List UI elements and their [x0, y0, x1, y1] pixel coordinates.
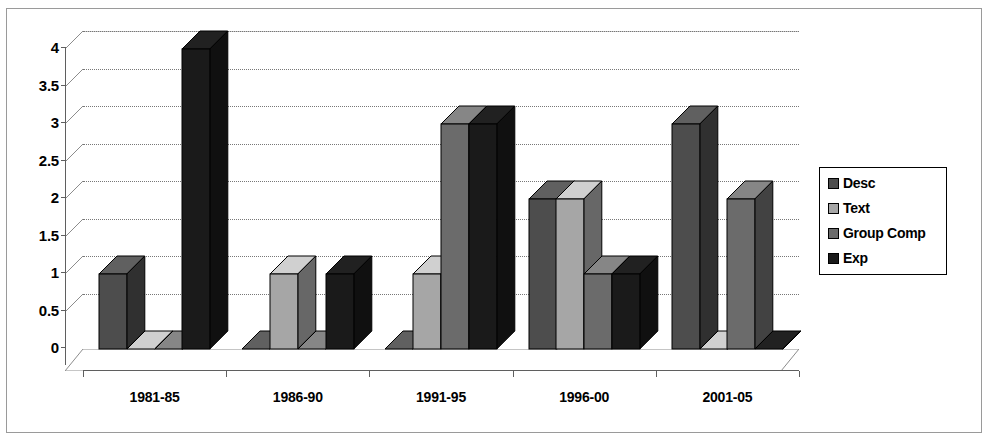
y-axis-tick [61, 310, 66, 311]
x-axis-tick [799, 371, 800, 377]
y-axis-label: 1 [51, 264, 59, 281]
legend-item-exp[interactable]: Exp [828, 250, 938, 266]
plot-area: 00.511.522.533.54 1981-851986-901991-951… [65, 31, 799, 371]
bar-text[interactable] [270, 256, 298, 349]
bar-desc[interactable] [385, 331, 413, 349]
y-axis-label: 1.5 [39, 226, 59, 243]
x-axis-tick [513, 371, 514, 377]
y-axis-label: 4 [51, 39, 59, 56]
y-axis-tick [61, 272, 66, 273]
x-axis-tick [226, 371, 227, 377]
bar-text[interactable] [556, 181, 584, 349]
y-axis-label: 2 [51, 189, 59, 206]
x-axis-category-label: 1991-95 [416, 389, 466, 405]
gridline-riser [65, 256, 83, 274]
bar-exp[interactable] [182, 31, 210, 349]
chart-floor [65, 349, 799, 371]
bar-group-comp[interactable] [584, 256, 612, 349]
gridline-riser [65, 219, 83, 237]
y-axis-label: 2.5 [39, 151, 59, 168]
x-axis-tick [83, 371, 84, 377]
legend-item-group-comp[interactable]: Group Comp [828, 225, 938, 241]
bar-exp[interactable] [755, 331, 783, 349]
chart-ceiling-edge [65, 31, 799, 49]
gridline-riser [65, 31, 83, 49]
legend-label-desc: Desc [843, 175, 875, 191]
y-axis-tick [61, 235, 66, 236]
gridline-riser [65, 144, 83, 162]
bar-group-comp[interactable] [727, 181, 755, 349]
legend-label-group-comp: Group Comp [843, 225, 926, 241]
y-axis-label: 3.5 [39, 76, 59, 93]
bar-group-comp[interactable] [441, 106, 469, 349]
x-axis-tick [369, 371, 370, 377]
bar-desc[interactable] [529, 181, 557, 349]
bar-desc[interactable] [672, 106, 700, 349]
legend-swatch-text [828, 203, 839, 214]
legend-swatch-group-comp [828, 228, 839, 239]
bar-text[interactable] [413, 256, 441, 349]
legend-swatch-exp [828, 253, 839, 264]
legend-item-desc[interactable]: Desc [828, 175, 938, 191]
y-axis-tick [61, 197, 66, 198]
y-axis-label: 0.5 [39, 301, 59, 318]
bar-text[interactable] [700, 331, 728, 349]
y-axis: 00.511.522.533.54 [65, 47, 66, 365]
x-axis-tick [656, 371, 657, 377]
legend-label-exp: Exp [843, 250, 868, 266]
bar-desc[interactable] [99, 256, 127, 349]
legend-label-text: Text [843, 200, 870, 216]
bar-exp[interactable] [469, 106, 497, 349]
bar-exp[interactable] [326, 256, 354, 349]
chart-legend: Desc Text Group Comp Exp [819, 167, 947, 275]
y-axis-tick [61, 122, 66, 123]
x-axis-category-label: 1981-85 [130, 389, 180, 405]
gridline-riser [65, 69, 83, 87]
bar-group-comp[interactable] [298, 331, 326, 349]
gridline-riser [65, 181, 83, 199]
chart-frame: 00.511.522.533.54 1981-851986-901991-951… [6, 8, 982, 433]
x-axis-category-label: 1996-00 [559, 389, 609, 405]
bar-text[interactable] [127, 331, 155, 349]
y-axis-tick [61, 47, 66, 48]
x-axis-category-label: 1986-90 [273, 389, 323, 405]
y-axis-tick [61, 85, 66, 86]
x-axis-category-label: 2001-05 [702, 389, 752, 405]
legend-item-text[interactable]: Text [828, 200, 938, 216]
y-axis-tick [61, 160, 66, 161]
y-axis-label: 3 [51, 114, 59, 131]
bar-group-comp[interactable] [155, 331, 183, 349]
x-axis: 1981-851986-901991-951996-002001-05 [83, 370, 799, 371]
gridline-riser [65, 106, 83, 124]
legend-swatch-desc [828, 178, 839, 189]
bar-desc[interactable] [242, 331, 270, 349]
y-axis-tick [61, 347, 66, 348]
bar-exp[interactable] [612, 256, 640, 349]
y-axis-label: 0 [51, 339, 59, 356]
gridline-riser [65, 294, 83, 312]
